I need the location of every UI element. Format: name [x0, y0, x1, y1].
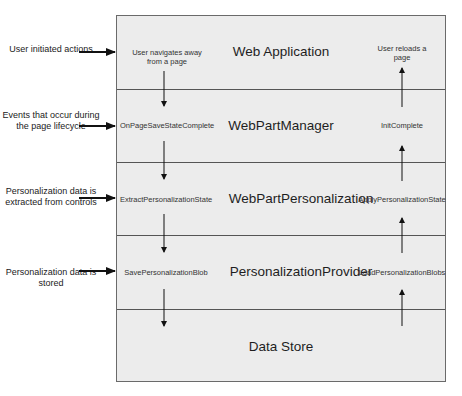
arrows-overlay [0, 0, 462, 396]
